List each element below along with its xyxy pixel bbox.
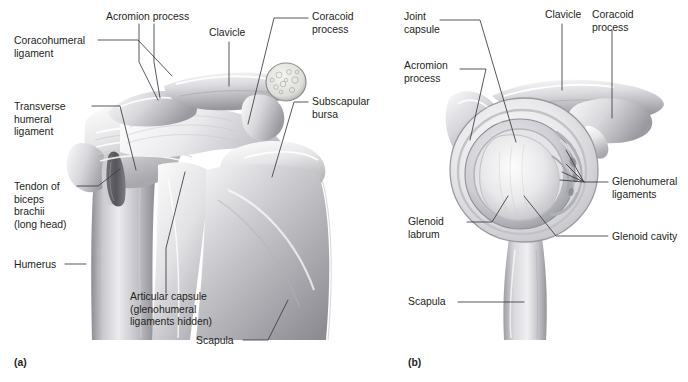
- label-acromion-process: Acromion process: [106, 11, 189, 22]
- scapula-body: [196, 164, 329, 340]
- anatomy-figure: Coracohumeral ligament Acromion process …: [0, 0, 688, 382]
- label-humerus: Humerus: [14, 259, 56, 270]
- label-clavicle-b: Clavicle: [545, 9, 582, 20]
- label-clavicle: Clavicle: [209, 27, 246, 38]
- panel-caption-a: (a): [14, 357, 27, 368]
- label-scapula-b: Scapula: [408, 296, 446, 307]
- label-scapula-a: Scapula: [196, 335, 234, 346]
- panel-caption-b: (b): [408, 357, 421, 368]
- label-glenoid-cavity: Glenoid cavity: [612, 231, 678, 242]
